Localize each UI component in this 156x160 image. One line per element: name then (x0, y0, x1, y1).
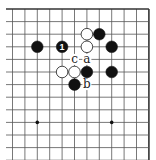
point-label-b: b (83, 77, 91, 91)
black-stone (106, 41, 118, 53)
white-stone (81, 28, 93, 40)
point-label-a: a (83, 52, 90, 66)
black-stone (32, 41, 44, 53)
white-stone (56, 66, 68, 78)
white-stone (81, 41, 93, 53)
point-label-c: c (71, 52, 78, 66)
black-stone (81, 66, 93, 78)
black-stone (94, 28, 106, 40)
white-stone (69, 66, 81, 78)
black-stone (106, 66, 118, 78)
board-canvas: cab 1 (0, 0, 156, 160)
go-board-diagram: cab 1 (0, 0, 156, 160)
star-point (36, 121, 40, 125)
black-stone (69, 79, 81, 91)
move-number: 1 (60, 42, 65, 52)
star-point (110, 121, 114, 125)
